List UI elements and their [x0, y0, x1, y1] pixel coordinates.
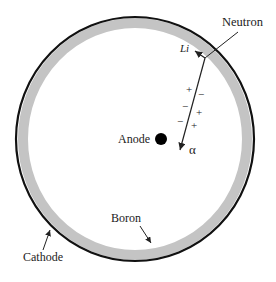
detector-diagram: Neutron Li α Anode Boron Cathode + − − +… — [0, 0, 276, 282]
anode-wire — [155, 133, 167, 145]
charge-plus: + — [186, 84, 192, 95]
charge-plus: + — [196, 107, 202, 118]
boron-label: Boron — [111, 212, 141, 224]
cathode-label: Cathode — [23, 251, 63, 263]
charge-minus: − — [177, 116, 183, 127]
cathode-arrow — [43, 230, 50, 250]
alpha-label: α — [189, 143, 196, 156]
charge-minus: − — [198, 89, 204, 100]
charge-plus: + — [191, 120, 197, 131]
charge-minus: − — [182, 101, 188, 112]
boron-arrow — [140, 226, 151, 243]
anode-label: Anode — [118, 133, 150, 145]
neutron-label: Neutron — [222, 16, 263, 29]
li-label: Li — [180, 43, 189, 54]
